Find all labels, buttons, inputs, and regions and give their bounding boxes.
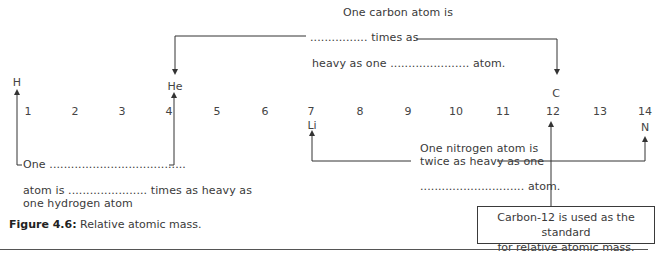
standard-box-line1: Carbon-12 is used as the standard: [478, 207, 654, 240]
number-10: 10: [449, 105, 463, 118]
number-11: 11: [496, 105, 510, 118]
number-1: 1: [25, 105, 32, 118]
element-carbon: C: [552, 87, 560, 100]
number-9: 9: [405, 105, 412, 118]
figure-caption: Figure 4.6: Relative atomic mass.: [9, 218, 201, 231]
nitrogen-statement-line1: One nitrogen atom is: [420, 142, 538, 155]
element-lithium: Li: [307, 119, 316, 132]
number-8: 8: [357, 105, 364, 118]
arrow-to-hydrogen: [17, 92, 22, 165]
standard-box-line2: for relative atomic mass.: [478, 240, 654, 255]
nitrogen-statement-line3: ............................. atom.: [420, 180, 560, 193]
number-13: 13: [593, 105, 607, 118]
helium-statement-line2: atom is ...................... times as …: [23, 184, 252, 197]
number-5: 5: [214, 105, 221, 118]
carbon-statement-line2: ................ times as: [310, 31, 419, 44]
number-6: 6: [262, 105, 269, 118]
element-hydrogen: H: [13, 76, 21, 89]
number-2: 2: [72, 105, 79, 118]
helium-statement-line3: one hydrogen atom: [23, 197, 133, 210]
figure-label: Figure 4.6:: [9, 218, 77, 231]
carbon-standard-box: Carbon-12 is used as the standard for re…: [477, 206, 655, 244]
number-12: 12: [546, 105, 560, 118]
carbon-statement-line3: heavy as one ...................... atom…: [312, 57, 505, 70]
number-4: 4: [166, 105, 173, 118]
arrow-to-lithium: [312, 133, 411, 161]
element-nitrogen: N: [641, 121, 649, 134]
number-14: 14: [638, 105, 652, 118]
nitrogen-statement-line2: twice as heavy as one: [420, 155, 544, 168]
caption-rule: [0, 249, 648, 250]
element-helium: He: [167, 80, 182, 93]
arrow-to-helium-top: [175, 36, 306, 72]
helium-statement-line1: One ....................................…: [23, 158, 186, 171]
number-3: 3: [119, 105, 126, 118]
number-7: 7: [308, 105, 315, 118]
carbon-statement-line1: One carbon atom is: [343, 6, 453, 19]
figure-caption-text: Relative atomic mass.: [77, 218, 202, 231]
